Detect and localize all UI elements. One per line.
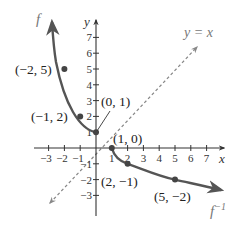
svg-text:3: 3	[87, 95, 93, 107]
point-neg1-2	[77, 113, 83, 119]
svg-text:3: 3	[141, 152, 147, 164]
svg-text:6: 6	[87, 47, 93, 59]
label-neg2-5: (−2, 5)	[15, 62, 52, 77]
svg-text:−3: −3	[40, 152, 52, 164]
label-1-0: (1, 0)	[113, 131, 142, 146]
label-2-neg1: (2, −1)	[101, 174, 138, 189]
label-0-1: (0, 1)	[101, 94, 130, 109]
point-neg2-5	[61, 66, 67, 72]
f-label: f	[36, 11, 42, 27]
svg-text:7: 7	[87, 31, 93, 43]
f-inverse-label: f−1	[210, 201, 226, 219]
label-5-neg2: (5, −2)	[154, 189, 191, 204]
svg-text:5: 5	[87, 63, 93, 75]
svg-text:−3: −3	[80, 189, 92, 201]
svg-text:7: 7	[204, 152, 210, 164]
x-axis-label: x	[218, 151, 225, 166]
label-neg1-2: (−1, 2)	[31, 109, 68, 124]
svg-text:2: 2	[87, 110, 93, 122]
svg-text:4: 4	[156, 152, 162, 164]
y-axis-label: y	[82, 14, 90, 29]
point-5-neg2	[172, 177, 178, 183]
svg-text:−1: −1	[80, 158, 92, 170]
point-2-neg1	[125, 161, 131, 167]
svg-text:−2: −2	[80, 174, 92, 186]
point-labels: (−2, 5) (−1, 2) (0, 1) (1, 0) (2, −1) (5…	[15, 62, 191, 204]
svg-text:5: 5	[172, 152, 178, 164]
identity-label: y = x	[182, 25, 214, 40]
svg-text:4: 4	[87, 79, 93, 91]
svg-text:−2: −2	[56, 152, 68, 164]
graph-canvas: −3 −2 −1 1 2 3 4 5 6 7 x 7 6 5 4 3 2 1 −…	[0, 0, 242, 227]
svg-text:6: 6	[188, 152, 194, 164]
leader-line-0-1	[97, 111, 110, 131]
